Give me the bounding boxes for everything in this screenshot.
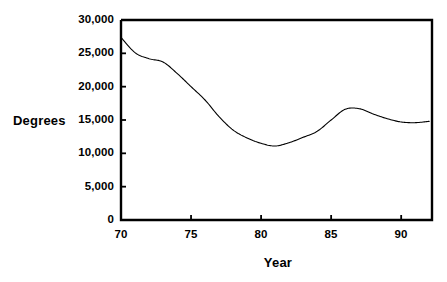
data-series-line xyxy=(121,37,429,146)
y-tick-label-0: 0 xyxy=(58,213,114,225)
x-tick-label-80: 80 xyxy=(241,228,281,240)
x-axis-title: Year xyxy=(238,255,318,270)
x-tick-label-75: 75 xyxy=(171,228,211,240)
x-tick-label-70: 70 xyxy=(101,228,141,240)
y-tick-label-25000: 25,000 xyxy=(58,46,114,58)
x-tick-label-90: 90 xyxy=(381,228,421,240)
x-tick-label-85: 85 xyxy=(311,228,351,240)
y-axis-title: Degrees xyxy=(13,113,66,128)
line-chart-canvas xyxy=(0,0,447,282)
y-tick-label-5000: 5,000 xyxy=(58,180,114,192)
chart-figure: 30,000 25,000 20,000 15,000 10,000 5,000… xyxy=(0,0,447,282)
y-tick-label-20000: 20,000 xyxy=(58,80,114,92)
y-tick-label-15000: 15,000 xyxy=(58,113,114,125)
y-tick-label-10000: 10,000 xyxy=(58,146,114,158)
plot-frame xyxy=(121,20,432,220)
y-tick-label-30000: 30,000 xyxy=(58,13,114,25)
